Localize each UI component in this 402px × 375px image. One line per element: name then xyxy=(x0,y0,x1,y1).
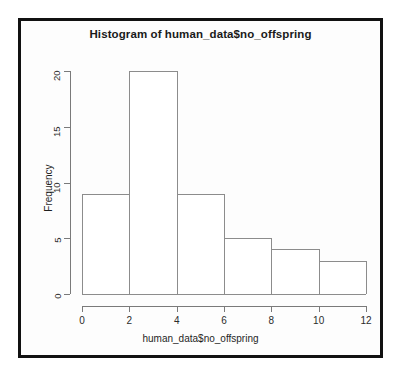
y-axis-title: Frequency xyxy=(43,164,54,211)
x-axis-tick-label: 10 xyxy=(313,315,324,326)
y-axis-tick-label: 0 xyxy=(52,294,63,299)
histogram-bar xyxy=(224,238,272,294)
x-axis-tick xyxy=(82,306,83,312)
plot-canvas: Histogram of human_data$no_offspring 051… xyxy=(21,21,380,355)
bar-baseline xyxy=(82,294,366,295)
histogram-bar xyxy=(129,71,177,294)
y-axis-tick xyxy=(64,71,70,72)
x-axis-tick-label: 4 xyxy=(174,315,180,326)
y-axis-line xyxy=(70,71,71,294)
y-axis-tick-label: 5 xyxy=(52,238,63,243)
x-axis-tick xyxy=(366,306,367,312)
x-axis-tick xyxy=(129,306,130,312)
histogram-bar xyxy=(82,194,130,294)
x-axis-tick xyxy=(319,306,320,312)
screenshot-root: Histogram of human_data$no_offspring 051… xyxy=(0,0,402,375)
histogram-bar xyxy=(271,249,319,294)
chart-title: Histogram of human_data$no_offspring xyxy=(21,28,380,40)
x-axis-tick xyxy=(224,306,225,312)
x-axis-title: human_data$no_offspring xyxy=(21,333,380,344)
x-axis-tick xyxy=(271,306,272,312)
histogram-bar xyxy=(319,261,367,294)
x-axis-tick-label: 12 xyxy=(360,315,371,326)
y-axis-tick-label: 15 xyxy=(52,126,63,137)
y-axis-tick xyxy=(64,238,70,239)
histogram-bar xyxy=(177,194,225,294)
plot-area xyxy=(82,71,366,294)
x-axis-tick xyxy=(177,306,178,312)
y-axis-tick-label: 20 xyxy=(52,71,63,82)
plot-frame: Histogram of human_data$no_offspring 051… xyxy=(18,18,383,358)
y-axis-tick xyxy=(64,127,70,128)
y-axis-tick xyxy=(64,294,70,295)
x-axis-tick-label: 6 xyxy=(221,315,227,326)
x-axis-tick-label: 0 xyxy=(79,315,85,326)
x-axis-tick-label: 2 xyxy=(127,315,133,326)
y-axis-tick xyxy=(64,183,70,184)
x-axis-tick-label: 8 xyxy=(269,315,275,326)
